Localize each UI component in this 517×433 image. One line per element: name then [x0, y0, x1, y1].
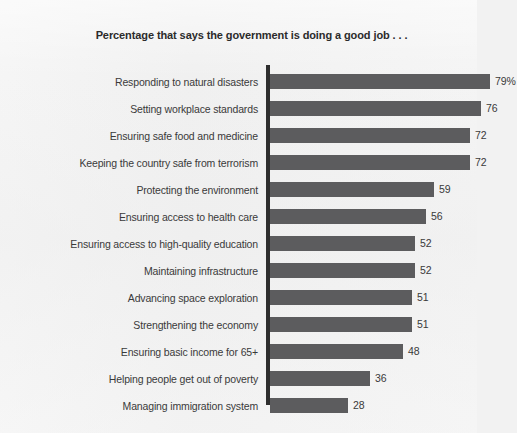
bar-category-label: Setting workplace standards [40, 103, 258, 115]
bar-row: Helping people get out of poverty36 [40, 369, 517, 396]
bar-row: Managing immigration system28 [40, 396, 517, 423]
bar-row: Maintaining infrastructure52 [40, 261, 517, 288]
bar-category-label: Advancing space exploration [40, 292, 258, 304]
bar-category-label: Ensuring access to high-quality educatio… [40, 238, 258, 250]
bar [270, 236, 415, 251]
bar-value-label: 28 [353, 399, 364, 411]
bar [270, 209, 426, 224]
bar-category-label: Strengthening the economy [40, 319, 258, 331]
bar [270, 263, 415, 278]
bar-row: Advancing space exploration51 [40, 288, 517, 315]
bar [270, 398, 348, 413]
bar [270, 317, 412, 332]
bar-category-label: Ensuring access to health care [40, 211, 258, 223]
bar-category-label: Protecting the environment [40, 184, 258, 196]
bar-category-label: Responding to natural disasters [40, 76, 258, 88]
bar-value-label: 72 [475, 156, 486, 168]
bar-value-label: 59 [439, 183, 450, 195]
bar [270, 155, 470, 170]
bar-row: Ensuring safe food and medicine72 [40, 126, 517, 153]
bar-value-label: 52 [420, 237, 431, 249]
bar-value-label: 56 [431, 210, 442, 222]
bar [270, 182, 434, 197]
bar-category-label: Maintaining infrastructure [40, 265, 258, 277]
bar-value-label: 72 [475, 129, 486, 141]
bar-row: Ensuring access to health care56 [40, 207, 517, 234]
bar-row: Ensuring basic income for 65+48 [40, 342, 517, 369]
chart-title: Percentage that says the government is d… [40, 29, 437, 41]
bar-row: Setting workplace standards76 [40, 99, 517, 126]
bar-value-label: 51 [417, 318, 428, 330]
bar-row: Keeping the country safe from terrorism7… [40, 153, 517, 180]
bar [270, 290, 412, 305]
bar-value-label: 52 [420, 264, 431, 276]
bar-chart-figure: Percentage that says the government is d… [40, 16, 437, 417]
bar-category-label: Keeping the country safe from terrorism [40, 157, 258, 169]
bar-row: Protecting the environment59 [40, 180, 517, 207]
bar-row: Responding to natural disasters79% [40, 72, 517, 99]
bar-value-label: 48 [408, 345, 419, 357]
bar-category-label: Helping people get out of poverty [40, 373, 258, 385]
bar-row: Ensuring access to high-quality educatio… [40, 234, 517, 261]
bar-row: Strengthening the economy51 [40, 315, 517, 342]
bar-category-label: Ensuring safe food and medicine [40, 130, 258, 142]
bar [270, 344, 403, 359]
bar-value-label: 51 [417, 291, 428, 303]
bar [270, 101, 481, 116]
bar-category-label: Managing immigration system [40, 400, 258, 412]
bar-value-label: 76 [486, 102, 497, 114]
plot-area: Responding to natural disasters79%Settin… [40, 64, 517, 409]
bar [270, 371, 370, 386]
bar [270, 128, 470, 143]
bar-value-label: 79% [495, 75, 516, 87]
bar-category-label: Ensuring basic income for 65+ [40, 346, 258, 358]
bar [270, 74, 490, 89]
bar-value-label: 36 [375, 372, 386, 384]
